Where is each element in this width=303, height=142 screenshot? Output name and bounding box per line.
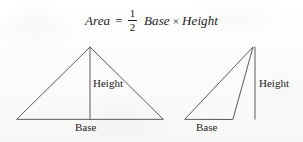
triangles-drawing (0, 0, 303, 142)
right-triangle-base-label: Base (196, 122, 217, 133)
right-triangle-height-label: Height (259, 78, 289, 89)
left-triangle-base-label: Base (75, 122, 96, 133)
left-triangle-height-label: Height (93, 78, 123, 89)
right-triangle-outline (185, 47, 253, 119)
figure-root: Area = 1 2 Base × Height Height Base Hei… (0, 0, 303, 142)
left-triangle-group (17, 47, 163, 119)
right-triangle-group (185, 47, 255, 119)
